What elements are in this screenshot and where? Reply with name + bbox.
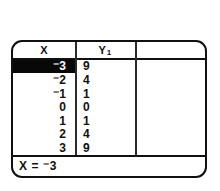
cell-x[interactable]: ⁻3 xyxy=(13,60,75,74)
table-row[interactable]: 0 0 xyxy=(13,100,205,114)
calculator-screen: X Y1 ⁻3 9 ⁻2 4 ⁻1 1 0 0 xyxy=(11,40,207,178)
table-row[interactable]: ⁻1 1 xyxy=(13,87,205,101)
cell-empty[interactable] xyxy=(135,87,205,101)
cell-x[interactable]: ⁻2 xyxy=(13,73,75,87)
cell-empty[interactable] xyxy=(135,141,205,155)
cell-y1[interactable]: 9 xyxy=(75,60,135,74)
table-row[interactable]: 2 4 xyxy=(13,128,205,142)
column-header-x-label: X xyxy=(40,44,48,56)
cell-y1[interactable]: 4 xyxy=(75,128,135,142)
status-bar: X = ⁻3 xyxy=(13,157,205,175)
cell-x[interactable]: 2 xyxy=(13,128,75,142)
cell-empty[interactable] xyxy=(135,100,205,114)
cell-x[interactable]: 3 xyxy=(13,141,75,155)
cell-y1[interactable]: 1 xyxy=(75,87,135,101)
table-row[interactable]: ⁻2 4 xyxy=(13,73,205,87)
table-body: ⁻3 9 ⁻2 4 ⁻1 1 0 0 1 1 2 4 xyxy=(13,60,205,155)
cell-empty[interactable] xyxy=(135,128,205,142)
column-header-y1[interactable]: Y1 xyxy=(75,42,135,58)
cell-empty[interactable] xyxy=(135,60,205,74)
cell-y1[interactable]: 9 xyxy=(75,141,135,155)
column-header-empty[interactable] xyxy=(135,42,205,58)
cell-empty[interactable] xyxy=(135,73,205,87)
table-row[interactable]: 3 9 xyxy=(13,141,205,155)
table-row[interactable]: 1 1 xyxy=(13,114,205,128)
table-row[interactable]: ⁻3 9 xyxy=(13,60,205,74)
cell-y1[interactable]: 0 xyxy=(75,100,135,114)
status-value-text: X = ⁻3 xyxy=(19,159,57,173)
cell-y1[interactable]: 1 xyxy=(75,114,135,128)
cell-empty[interactable] xyxy=(135,114,205,128)
table-header-row: X Y1 xyxy=(13,42,205,58)
cell-x[interactable]: ⁻1 xyxy=(13,87,75,101)
column-header-y1-subscript: 1 xyxy=(107,48,112,57)
cell-x[interactable]: 1 xyxy=(13,114,75,128)
cell-x[interactable]: 0 xyxy=(13,100,75,114)
column-header-y1-label: Y xyxy=(99,44,107,56)
column-header-x[interactable]: X xyxy=(13,42,75,58)
cell-y1[interactable]: 4 xyxy=(75,73,135,87)
